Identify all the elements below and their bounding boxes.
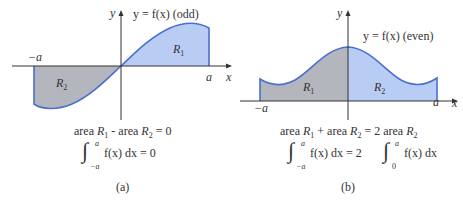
caption-a: (a) — [116, 180, 129, 195]
y-axis-arrow-odd — [119, 10, 124, 16]
y-axis-label-odd: y — [110, 6, 115, 21]
region-label-r2-even: R2 — [374, 80, 385, 96]
region-label-r1-even: R1 — [303, 80, 314, 96]
x-axis-arrow-odd — [226, 64, 232, 69]
area-equation-odd: area R1 - area R2 = 0 — [74, 124, 171, 140]
y-axis-arrow-even — [346, 10, 351, 16]
curve-label-even: y = f(x) (even) — [363, 29, 433, 44]
caption-b: (b) — [341, 180, 355, 195]
integral-sign-2: ∫ — [383, 140, 389, 162]
integral-sign: ∫ — [82, 138, 88, 163]
region-label-r1-odd: R1 — [173, 42, 184, 58]
right-bound-odd: a — [206, 70, 212, 85]
integral-even: ∫ a −a f(x) dx = 2 ∫ a 0 f(x) dx — [288, 140, 458, 170]
x-axis-label-even: x — [452, 96, 457, 111]
x-axis-label-odd: x — [226, 70, 231, 85]
right-bound-even: a — [433, 95, 439, 110]
region-label-r2-odd: R2 — [56, 76, 67, 92]
integral-odd: ∫ a −a f(x) dx = 0 — [82, 140, 88, 170]
y-axis-label-even: y — [337, 6, 342, 21]
left-bound-even: −a — [254, 101, 268, 116]
curve-label-odd: y = f(x) (odd) — [133, 7, 199, 22]
integral-sign-1: ∫ — [288, 138, 294, 163]
area-equation-even: area R1 + area R2 = 2 area R2 — [280, 124, 418, 140]
left-bound-odd: −a — [28, 50, 42, 65]
